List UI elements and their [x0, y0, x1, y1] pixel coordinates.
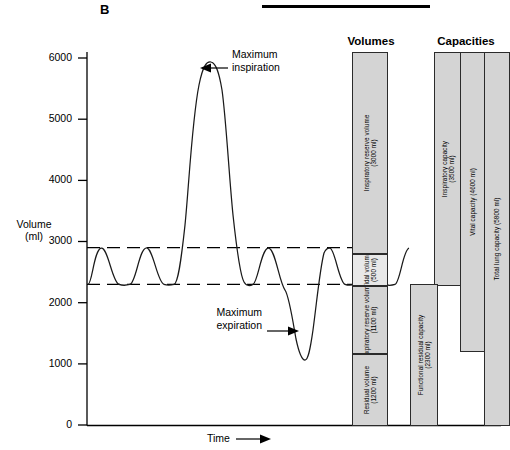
y-tick-label-2000: 2000 [28, 296, 72, 308]
bar-label-irv-amount: (3000 ml) [370, 115, 377, 192]
bar-inspiratory-capacity: Inspiratory capacity (3500 ml) [434, 52, 462, 286]
bar-label-tlc-name: Total lung capacity (5800 ml) [493, 197, 500, 280]
bar-label-functional-residual-capacity: Functional residual capacity (2300 ml) [417, 315, 432, 396]
y-tick-label-1000: 1000 [28, 357, 72, 369]
bar-label-tv-amount: (500 ml) [370, 254, 377, 286]
bar-label-rv-amount: (1200 ml) [370, 366, 377, 414]
bar-label-total-lung-capacity: Total lung capacity (5800 ml) [493, 197, 500, 280]
bar-residual-volume: Residual volume (1200 ml) [352, 354, 388, 426]
bar-label-irv-name: Inspiratory reserve volume [363, 115, 370, 192]
bar-label-erv-amount: (1100 ml) [370, 286, 377, 354]
annotation-maximum-inspiration: Maximum inspiration [232, 48, 280, 73]
bar-inspiratory-reserve-volume: Inspiratory reserve volume (3000 ml) [352, 52, 388, 254]
annotation-maximum-expiration-line1: Maximum [216, 306, 262, 318]
bar-vital-capacity: Vital capacity (4600 ml) [460, 52, 486, 352]
time-axis-arrow [236, 435, 271, 444]
bar-label-vc-name: Vital capacity (4600 ml) [469, 168, 476, 236]
volumes-column-heading: Volumes [340, 35, 402, 47]
bar-label-inspiratory-capacity: Inspiratory capacity (3500 ml) [441, 141, 456, 197]
x-axis-label: Time [207, 432, 230, 444]
y-tick-label-4000: 4000 [28, 173, 72, 185]
bar-functional-residual-capacity: Functional residual capacity (2300 ml) [410, 284, 438, 426]
bar-label-tv-name: Tidal volume [363, 254, 370, 286]
annotation-maximum-expiration: Maximum expiration [186, 306, 262, 331]
capacities-column-heading: Capacities [428, 35, 504, 47]
bar-label-vital-capacity: Vital capacity (4600 ml) [469, 168, 476, 236]
bar-label-rv-name: Residual volume [363, 366, 370, 414]
bar-label-erv-name: Expiratory reserve volume [363, 286, 370, 354]
bar-label-frc-amount: (2300 ml) [424, 315, 431, 396]
annotation-maximum-inspiration-line2: inspiration [232, 61, 280, 73]
bar-tidal-volume: Tidal volume (500 ml) [352, 254, 388, 286]
bar-label-ic-name: Inspiratory capacity [441, 141, 448, 197]
y-tick-label-5000: 5000 [28, 112, 72, 124]
bar-label-ic-amount: (3500 ml) [448, 141, 455, 197]
bar-label-tidal-volume: Tidal volume (500 ml) [363, 254, 378, 286]
bar-label-expiratory-reserve-volume: Expiratory reserve volume (1100 ml) [363, 286, 378, 354]
bar-label-residual-volume: Residual volume (1200 ml) [363, 366, 378, 414]
bar-label-frc-name: Functional residual capacity [417, 315, 424, 396]
y-tick-label-3000: 3000 [28, 234, 72, 246]
y-tick-label-6000: 6000 [28, 51, 72, 63]
annotation-maximum-inspiration-line1: Maximum [232, 48, 278, 60]
y-tick-label-0: 0 [28, 418, 72, 430]
bar-label-inspiratory-reserve-volume: Inspiratory reserve volume (3000 ml) [363, 115, 378, 192]
y-axis-title-line1: Volume [16, 218, 51, 230]
bar-total-lung-capacity: Total lung capacity (5800 ml) [484, 52, 510, 426]
bar-expiratory-reserve-volume: Expiratory reserve volume (1100 ml) [352, 286, 388, 354]
annotation-maximum-expiration-line2: expiration [216, 319, 262, 331]
y-axis-ticks [78, 58, 87, 425]
